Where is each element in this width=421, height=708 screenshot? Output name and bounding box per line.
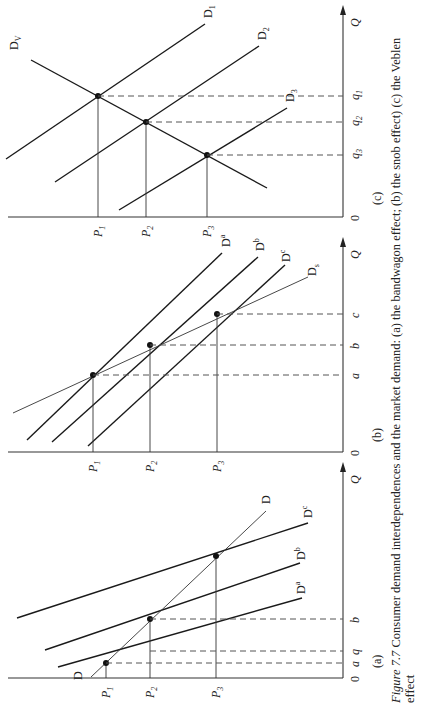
demand-curve-dc bbox=[17, 523, 308, 618]
panel-b: Q0(b)DaDbDcDsP1P2P3abc bbox=[8, 234, 384, 473]
figure-7-7: Q0(c)D1D2D3DVP1P2P3q1q2q3Q0(b)DaDbDcDsP1… bbox=[0, 0, 421, 708]
demand-curve-d2 bbox=[55, 46, 259, 182]
panel-label: (a) bbox=[370, 655, 384, 668]
demand-curve-dc bbox=[88, 265, 285, 446]
price-tick-p1: P1 bbox=[91, 226, 107, 238]
caption-line-2: effect bbox=[403, 674, 417, 703]
quantity-tick-a: a bbox=[348, 661, 362, 667]
price-tick-p2: P2 bbox=[139, 226, 155, 238]
caption-line-1: Figure 7.7 Consumer demand interdependen… bbox=[389, 37, 403, 704]
price-tick-p1: P1 bbox=[99, 687, 115, 699]
price-tick-p3: P3 bbox=[210, 461, 226, 473]
quantity-tick-q1: q1 bbox=[348, 90, 364, 100]
quantity-tick-q: q bbox=[348, 649, 362, 655]
q-axis-label: Q bbox=[348, 18, 362, 27]
curve-label-db: Db bbox=[252, 238, 267, 251]
demand-curve-db bbox=[52, 257, 258, 442]
origin-label: 0 bbox=[348, 215, 362, 221]
caption-text: Consumer demand interdependences and the… bbox=[389, 37, 403, 651]
quantity-tick-b: b bbox=[348, 617, 362, 623]
panels: Q0(c)D1D2D3DVP1P2P3q1q2q3Q0(b)DaDbDcDsP1… bbox=[6, 5, 384, 699]
quantity-tick-a: a bbox=[348, 373, 362, 379]
axis-arrow-icon bbox=[340, 462, 346, 472]
q-axis-label: Q bbox=[348, 250, 362, 259]
curve-label-da: Da bbox=[218, 234, 233, 247]
panel-label: (c) bbox=[370, 192, 384, 205]
panel-c: Q0(c)D1D2D3DVP1P2P3q1q2q3 bbox=[6, 5, 384, 238]
curve-label-d1: D1 bbox=[201, 5, 217, 18]
curve-label-dc: Dc bbox=[300, 505, 315, 518]
curve-label-d: D bbox=[259, 495, 273, 504]
demand-curve-db bbox=[45, 563, 300, 650]
demand-curve-d bbox=[91, 511, 266, 677]
price-tick-p3: P3 bbox=[209, 687, 225, 699]
panel-label: (b) bbox=[370, 428, 384, 442]
equilibrium-point bbox=[213, 553, 219, 559]
price-tick-p3: P3 bbox=[200, 226, 216, 238]
figure-caption: Figure 7.7 Consumer demand interdependen… bbox=[389, 37, 417, 704]
origin-label: 0 bbox=[348, 450, 362, 456]
demand-curve-dv bbox=[31, 60, 267, 188]
origin-label: 0 bbox=[348, 676, 362, 682]
axis-arrow-icon bbox=[340, 237, 346, 247]
quantity-tick-q3: q3 bbox=[348, 149, 364, 159]
price-tick-p1: P1 bbox=[86, 461, 102, 473]
price-tick-p2: P2 bbox=[143, 461, 159, 473]
quantity-tick-b: b bbox=[348, 343, 362, 349]
quantity-tick-q2: q2 bbox=[348, 116, 364, 126]
quantity-tick-c: c bbox=[348, 312, 362, 318]
curve-label-d-label-left: D bbox=[71, 671, 85, 680]
price-tick-p2: P2 bbox=[143, 687, 159, 699]
panel-a: Q0(a)DaDbDcDDP1P2P3aqb bbox=[8, 462, 384, 699]
axis-arrow-icon bbox=[340, 5, 346, 15]
caption-figure-label: Figure 7.7 bbox=[389, 650, 403, 704]
curve-label-d2: D2 bbox=[255, 27, 271, 40]
q-axis-label: Q bbox=[348, 475, 362, 484]
curve-label-dc: Dc bbox=[278, 249, 293, 262]
curve-label-db: Db bbox=[293, 547, 308, 560]
curve-label-ds: Ds bbox=[305, 264, 321, 276]
curve-label-da: Da bbox=[293, 581, 308, 594]
curve-label-dv: DV bbox=[7, 35, 23, 50]
